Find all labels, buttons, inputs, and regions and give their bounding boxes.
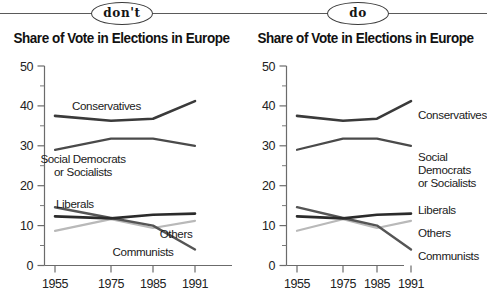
y-axis-tick-labels: 50 40 30 20 10 0 <box>262 60 276 274</box>
x-axis-ticks <box>297 266 411 273</box>
header-divider-rule <box>0 13 487 14</box>
series-label-social-democrats-line1: Social Democrats <box>40 152 126 165</box>
axis-lines <box>287 66 405 266</box>
y-tick-label: 10 <box>262 219 276 233</box>
y-tick-label: 0 <box>26 259 33 273</box>
series-label-others: Others <box>160 227 193 240</box>
x-tick-label: 1975 <box>330 277 357 291</box>
x-tick-label: 1991 <box>398 277 425 291</box>
series-label-communists: Communists <box>113 245 174 258</box>
y-axis-minor-ticks <box>282 86 287 246</box>
y-tick-label: 10 <box>20 219 34 233</box>
series-label-social-democrats-line1: Social <box>418 150 447 163</box>
x-tick-label: 1985 <box>140 277 167 291</box>
series-label-social-democrats-line2: or Socialists <box>54 165 113 178</box>
y-tick-label: 30 <box>20 139 34 153</box>
y-axis-minor-ticks <box>40 86 45 246</box>
y-tick-label: 20 <box>20 179 34 193</box>
badge-dont: don't <box>91 2 153 25</box>
chart-plot-dont: 50 40 30 20 10 0 1955 1975 1985 1991 <box>0 22 243 300</box>
series-line-conservatives <box>297 101 411 121</box>
series-label-liberals: Liberals <box>418 203 456 216</box>
series-line-liberals <box>297 214 411 219</box>
badge-dont-label: don't <box>103 7 140 19</box>
y-tick-label: 0 <box>268 259 275 273</box>
x-tick-label: 1991 <box>182 277 209 291</box>
badge-do-label: do <box>349 7 367 19</box>
x-axis-tick-labels: 1955 1975 1985 1991 <box>284 277 425 291</box>
series-label-others: Others <box>418 226 451 239</box>
panel-dont: Share of Vote in Elections in Europe <box>0 22 243 300</box>
x-tick-label: 1955 <box>42 277 69 291</box>
panel-do: Share of Vote in Elections in Europe <box>244 22 487 300</box>
series-line-liberals <box>55 214 195 219</box>
series-label-social-democrats-line3: or Socialists <box>418 176 477 189</box>
series-label-liberals: Liberals <box>56 197 94 210</box>
badge-do: do <box>327 2 389 25</box>
y-tick-label: 20 <box>262 179 276 193</box>
x-axis-tick-labels: 1955 1975 1985 1991 <box>42 277 209 291</box>
series-labels: Conservatives Social Democrats or Social… <box>418 108 487 262</box>
x-tick-label: 1975 <box>98 277 125 291</box>
y-tick-label: 30 <box>262 139 276 153</box>
y-tick-label: 40 <box>20 99 34 113</box>
series-labels: Conservatives Social Democrats or Social… <box>40 99 193 258</box>
series-label-conservatives: Conservatives <box>418 108 487 121</box>
series-label-communists: Communists <box>418 249 479 262</box>
figure-root: don't do Share of Vote in Elections in E… <box>0 0 487 300</box>
y-axis-tick-labels: 50 40 30 20 10 0 <box>20 60 34 274</box>
x-axis-ticks <box>55 266 195 273</box>
y-tick-label: 50 <box>262 60 276 74</box>
series-line-social-democrats <box>55 139 195 150</box>
series-line-social-democrats <box>297 139 411 150</box>
series-label-conservatives: Conservatives <box>72 99 141 112</box>
y-tick-label: 40 <box>262 99 276 113</box>
series-label-social-democrats-line2: Democrats <box>418 163 471 176</box>
chart-plot-do: 50 40 30 20 10 0 1955 1975 1985 1991 <box>244 22 487 300</box>
x-tick-label: 1955 <box>284 277 311 291</box>
x-tick-label: 1985 <box>364 277 391 291</box>
y-tick-label: 50 <box>20 60 34 74</box>
